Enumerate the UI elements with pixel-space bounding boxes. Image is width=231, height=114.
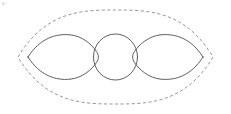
right-petal-shape: [133, 35, 203, 80]
diagram-svg: Three tangent regions enclosed by a dash…: [0, 0, 231, 114]
figure-canvas: Three tangent regions enclosed by a dash…: [0, 0, 231, 114]
center-circle-shape: [94, 34, 138, 80]
dashed-outer-lens-boundary: [18, 10, 213, 104]
left-petal-shape: [28, 35, 98, 80]
